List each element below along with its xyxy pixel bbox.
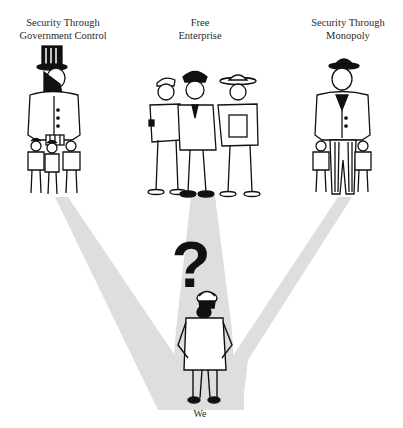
label-government-control: Security Through Government Control	[8, 17, 118, 42]
label-line: Monopoly	[298, 30, 398, 43]
figure-government-control	[28, 46, 80, 194]
label-monopoly: Security Through Monopoly	[298, 17, 398, 42]
label-line: Security Through	[8, 17, 118, 30]
label-line: Free	[150, 17, 250, 30]
label-line: Government Control	[8, 30, 118, 43]
question-mark: ?	[171, 229, 210, 301]
figure-free-enterprise	[148, 72, 260, 198]
label-line: Security Through	[298, 17, 398, 30]
figure-monopoly	[313, 59, 371, 194]
illustration-canvas: ?	[0, 0, 403, 428]
label-we: We	[170, 408, 230, 421]
label-free-enterprise: Free Enterprise	[150, 17, 250, 42]
label-line: We	[170, 408, 230, 421]
label-line: Enterprise	[150, 30, 250, 43]
